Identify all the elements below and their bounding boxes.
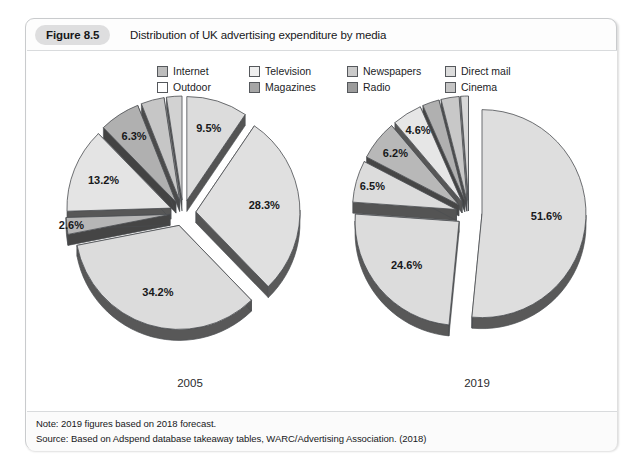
figure-screenshot: Figure 8.5 Distribution of UK advertisin… bbox=[0, 0, 642, 475]
legend-item-label: Internet bbox=[173, 65, 209, 77]
pie-2019-svg: 51.6%24.6%6.5%6.2%4.6%2.6%2.8%1.2% bbox=[317, 81, 617, 381]
pie-chart-2019: 51.6%24.6%6.5%6.2%4.6%2.6%2.8%1.2% bbox=[317, 81, 617, 381]
legend-item-label: Television bbox=[265, 65, 311, 77]
figure-title: Distribution of UK advertising expenditu… bbox=[130, 25, 386, 45]
year-label-right: 2019 bbox=[447, 377, 507, 389]
legend-swatch-icon bbox=[157, 66, 168, 77]
pie-2005-svg: 9.5%28.3%34.2%2.6%13.2%6.3%3.6%2.4% bbox=[35, 81, 335, 381]
note-text: Note: 2019 figures based on 2018 forecas… bbox=[36, 418, 216, 429]
figure-header: Figure 8.5 Distribution of UK advertisin… bbox=[26, 19, 616, 50]
legend-swatch-icon bbox=[249, 66, 260, 77]
legend-item-label: Direct mail bbox=[461, 65, 511, 77]
pie-slice-label: 34.2% bbox=[142, 286, 173, 298]
source-text: Source: Based on Adspend database takeaw… bbox=[36, 433, 426, 444]
legend-swatch-icon bbox=[445, 66, 456, 77]
legend-item-newspapers: Newspapers bbox=[347, 63, 421, 79]
legend-item-label: Newspapers bbox=[363, 65, 421, 77]
figure-notes: Note: 2019 figures based on 2018 forecas… bbox=[27, 411, 617, 451]
pie-slice-internet bbox=[472, 110, 586, 318]
year-label-left: 2005 bbox=[160, 377, 220, 389]
pie-slice-label: 9.5% bbox=[196, 122, 221, 134]
pie-slice-label: 13.2% bbox=[88, 174, 119, 186]
pie-slice-label: 2.6% bbox=[59, 219, 84, 231]
chart-plot-area: InternetTelevisionNewspapersDirect mail … bbox=[27, 50, 617, 412]
legend-swatch-icon bbox=[347, 66, 358, 77]
figure-frame: Figure 8.5 Distribution of UK advertisin… bbox=[25, 18, 617, 450]
pie-slice-label: 6.3% bbox=[122, 130, 147, 142]
pie-chart-2005: 9.5%28.3%34.2%2.6%13.2%6.3%3.6%2.4% bbox=[35, 81, 335, 381]
pie-slice-label: 4.6% bbox=[405, 124, 430, 136]
legend-item-direct-mail: Direct mail bbox=[445, 63, 511, 79]
pie-slice-label: 51.6% bbox=[531, 210, 562, 222]
pie-slice-label: 28.3% bbox=[249, 199, 280, 211]
pie-slice-label: 6.2% bbox=[383, 147, 408, 159]
legend-item-internet: Internet bbox=[157, 63, 209, 79]
figure-number-badge: Figure 8.5 bbox=[35, 25, 110, 45]
pie-slice-label: 24.6% bbox=[391, 259, 422, 271]
legend-row-1: InternetTelevisionNewspapersDirect mail bbox=[157, 63, 527, 79]
pie-slice-label: 6.5% bbox=[360, 180, 385, 192]
legend-item-television: Television bbox=[249, 63, 311, 79]
